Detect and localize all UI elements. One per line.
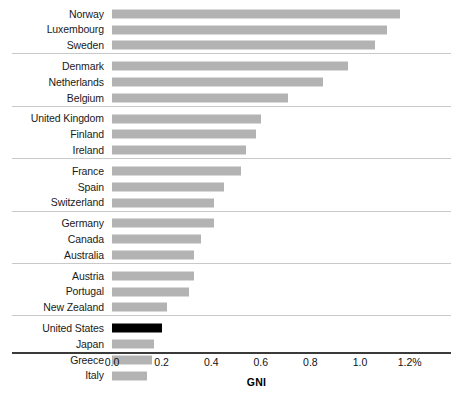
category-label: New Zealand [0,302,104,313]
bar [112,25,387,34]
bar [112,303,167,312]
bar-group: United KingdomFinlandIreland [0,106,457,158]
bar [112,287,189,296]
bar-group: GermanyCanadaAustralia [0,211,457,263]
category-label: Denmark [0,61,104,72]
category-label: United States [0,323,104,334]
bar-track [112,62,457,71]
bar-row: Portugal [0,284,457,300]
category-label: Austria [0,271,104,282]
x-tick-label: 0.4 [204,357,219,368]
category-label: United Kingdom [0,113,104,124]
bar [112,146,246,155]
category-label: Switzerland [0,197,104,208]
bar-group: DenmarkNetherlandsBelgium [0,53,457,105]
group-separator [12,211,451,212]
bar-row: Germany [0,216,457,232]
bar [112,219,214,228]
bar [112,41,375,50]
bar-row: Norway [0,6,457,22]
bar-row: Japan [0,336,457,352]
category-label: Netherlands [0,77,104,88]
bar-row: Austria [0,268,457,284]
bar-track [112,167,457,176]
bar-row: Australia [0,247,457,263]
group-separator [12,315,451,316]
category-label: France [0,166,104,177]
group-separator [12,263,451,264]
bar [112,198,214,207]
bar-track [112,41,457,50]
category-label: Belgium [0,93,104,104]
bar-track [112,182,457,191]
x-tick-label: 0.8 [303,357,318,368]
category-label: Ireland [0,145,104,156]
plot-area: NorwayLuxembourgSwedenDenmarkNetherlands… [0,6,457,351]
bar-track [112,114,457,123]
bar-row: Canada [0,231,457,247]
bar-group: United StatesJapanGreeceItaly [0,315,457,383]
bar-row: Netherlands [0,74,457,90]
x-axis-title-text: GNI [247,376,266,388]
bar-track [112,251,457,260]
bar-track [112,146,457,155]
bar [112,78,323,87]
bar-row: United Kingdom [0,111,457,127]
x-tick-label: 0.6 [253,357,268,368]
x-tick-label: 0.2 [154,357,169,368]
bar [112,9,400,18]
bar [112,62,348,71]
bar [112,167,241,176]
group-separator [12,158,451,159]
bar-row: Sweden [0,38,457,54]
bar [112,340,154,349]
category-label: Luxembourg [0,24,104,35]
category-label: Japan [0,339,104,350]
category-label: Portugal [0,286,104,297]
bar-track [112,324,457,333]
bar-row: Switzerland [0,195,457,211]
bar [112,114,261,123]
category-label: Germany [0,218,104,229]
bar-track [112,9,457,18]
x-axis-title: GNI [0,376,457,388]
x-axis-line [12,352,451,354]
gni-bar-chart: NorwayLuxembourgSwedenDenmarkNetherlands… [0,0,457,399]
bar-track [112,271,457,280]
bar-row: Finland [0,127,457,143]
bar-track [112,303,457,312]
bar-row: Belgium [0,90,457,106]
category-label: Canada [0,234,104,245]
bar [112,271,194,280]
bar-row: Ireland [0,142,457,158]
bar-track [112,198,457,207]
bar [112,182,224,191]
bar-row: Luxembourg [0,22,457,38]
bar-row: New Zealand [0,300,457,316]
x-tick-label: 1.0 [353,357,368,368]
bar [112,235,201,244]
x-tick-label: 0.0 [105,357,120,368]
bar [112,130,256,139]
bar-row: Denmark [0,58,457,74]
bar-track [112,25,457,34]
group-separator [12,53,451,54]
bar [112,324,162,333]
bar-track [112,340,457,349]
bar [112,93,288,102]
category-label: Sweden [0,40,104,51]
bar [112,251,194,260]
bar-track [112,287,457,296]
bar-group: NorwayLuxembourgSweden [0,6,457,53]
bar-row: Spain [0,179,457,195]
bar-track [112,78,457,87]
category-label: Norway [0,9,104,20]
x-tick-label: 1.2% [398,357,422,368]
category-label: Australia [0,250,104,261]
bar-group: AustriaPortugalNew Zealand [0,263,457,315]
category-label: Finland [0,129,104,140]
bar-row: France [0,163,457,179]
bar-track [112,93,457,102]
category-label: Spain [0,182,104,193]
group-separator [12,106,451,107]
